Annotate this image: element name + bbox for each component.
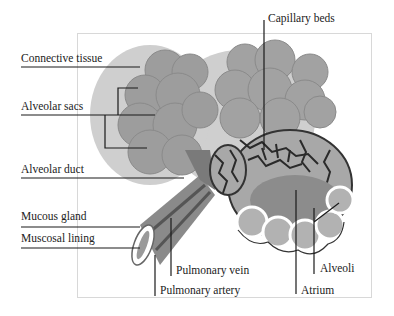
label-atrium: Atrium [301,285,334,297]
capillary-bed-cluster [210,130,353,254]
label-pulmonary-artery: Pulmonary artery [160,285,240,297]
label-alveolar-sacs: Alveolar sacs [21,101,83,113]
label-capillary-beds: Capillary beds [268,13,335,25]
label-connective-tissue: Connective tissue [21,53,102,65]
label-alveoli: Alveoli [320,263,355,275]
label-mucous-gland: Mucous gland [21,211,86,223]
label-muscosal-lining: Muscosal lining [21,233,95,245]
right-alveolar-cluster [215,40,336,138]
label-alveolar-duct: Alveolar duct [21,164,84,176]
label-pulmonary-vein: Pulmonary vein [176,265,249,277]
